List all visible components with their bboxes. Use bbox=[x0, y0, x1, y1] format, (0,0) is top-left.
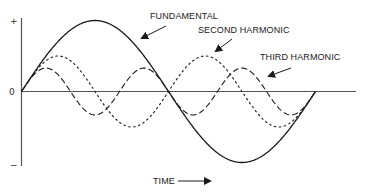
y-plus-label: + bbox=[10, 16, 18, 26]
third-harmonic-pointer-arrow bbox=[269, 68, 291, 76]
second-harmonic-pointer-arrow bbox=[216, 39, 232, 51]
y-minus-label: − bbox=[10, 160, 18, 170]
harmonics-diagram: + 0 − FUNDAMENTAL SECOND HARMONIC THIRD … bbox=[0, 0, 365, 193]
y-zero-label: 0 bbox=[9, 87, 15, 97]
fundamental-pointer-arrow bbox=[142, 26, 166, 38]
fundamental-label: FUNDAMENTAL bbox=[150, 11, 218, 21]
time-axis-label: TIME bbox=[153, 176, 175, 186]
third-harmonic-label: THIRD HARMONIC bbox=[260, 52, 341, 62]
second-harmonic-label: SECOND HARMONIC bbox=[198, 25, 290, 35]
